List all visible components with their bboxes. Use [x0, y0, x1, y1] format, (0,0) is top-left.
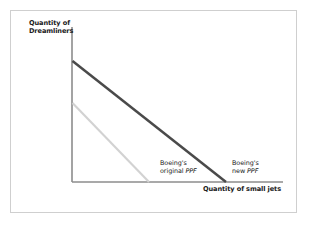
ppf-new-label-line1: Boeing's — [232, 159, 259, 167]
ppf-original-label-line1: Boeing's — [160, 159, 187, 167]
ppf-new-label-line2-plain: new — [232, 167, 247, 175]
ppf-new-label-line2-italic: PPF — [247, 167, 258, 175]
y-axis-label: Quantity of Dreamliners — [29, 20, 73, 35]
ppf-original-line — [73, 103, 150, 182]
ppf-original-label-line2-italic: PPF — [185, 167, 196, 175]
y-axis-label-line2: Dreamliners — [29, 27, 73, 35]
ppf-figure: Quantity of Dreamliners Quantity of smal… — [0, 0, 309, 225]
ppf-original-label-line2-plain: original — [160, 167, 185, 175]
ppf-original-label: Boeing's original PPF — [160, 160, 197, 176]
x-axis-label-text: Quantity of small jets — [203, 185, 281, 193]
x-axis-label: Quantity of small jets — [203, 186, 281, 194]
ppf-new-label: Boeing's new PPF — [232, 160, 259, 176]
ppf-new-line — [73, 61, 227, 182]
